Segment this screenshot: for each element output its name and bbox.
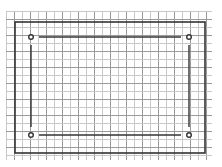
grid-diagram: [0, 0, 222, 167]
marker-top-right-icon: [187, 35, 192, 40]
graph-paper-grid: [6, 11, 212, 160]
marker-bottom-left-icon: [29, 133, 34, 138]
marker-bottom-right-icon: [187, 133, 192, 138]
marker-top-left-icon: [29, 35, 34, 40]
